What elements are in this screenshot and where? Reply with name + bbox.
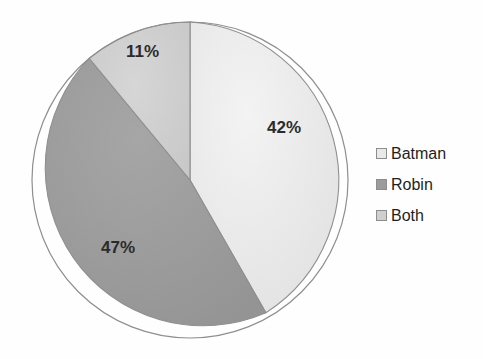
pie-chart-svg [0, 0, 360, 359]
legend-swatch-icon [376, 148, 387, 159]
legend-item-both[interactable]: Both [376, 200, 481, 231]
legend-item-batman[interactable]: Batman [376, 138, 481, 169]
chart-legend: Batman Robin Both [376, 138, 481, 231]
pie-label-robin: 47% [101, 238, 135, 258]
legend-swatch-icon [376, 210, 387, 221]
pie-label-both: 11% [126, 42, 159, 62]
legend-swatch-icon [376, 179, 387, 190]
pie-label-batman: 42% [267, 118, 301, 138]
chart-canvas: 42% 47% 11% Batman Robin Both [0, 0, 483, 359]
legend-label: Robin [391, 176, 433, 194]
legend-label: Batman [391, 145, 446, 163]
legend-item-robin[interactable]: Robin [376, 169, 481, 200]
pie-chart: 42% 47% 11% [0, 0, 360, 359]
legend-label: Both [391, 207, 424, 225]
